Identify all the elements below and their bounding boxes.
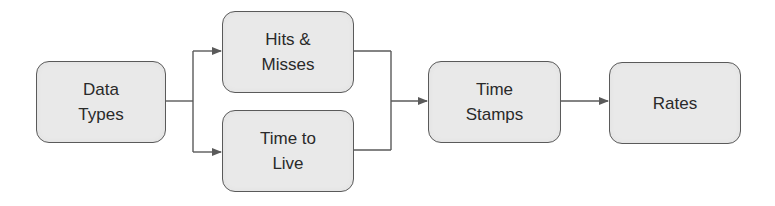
node-label: Data Types [78,77,123,127]
node-time-to-live: Time to Live [222,110,354,192]
edge-merge-to-time-stamps [354,51,427,150]
flow-diagram: Data Types Hits & Misses Time to Live Ti… [0,0,775,206]
node-label: Time Stamps [466,77,524,127]
node-data-types: Data Types [36,61,166,143]
node-label: Time to Live [260,126,316,176]
node-rates: Rates [609,62,741,144]
node-time-stamps: Time Stamps [428,61,561,143]
edge-data-types-split [166,51,193,152]
node-hits-misses: Hits & Misses [222,11,354,93]
node-label: Hits & Misses [262,27,315,77]
node-label: Rates [653,91,697,116]
